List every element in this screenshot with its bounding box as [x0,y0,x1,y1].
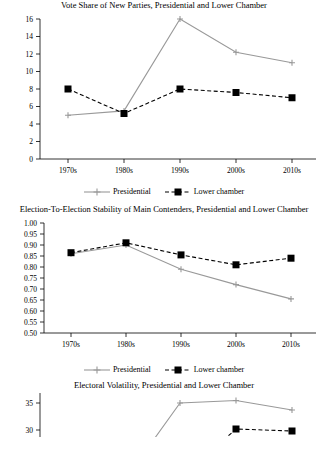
svg-text:0.75: 0.75 [24,274,37,283]
svg-text:14: 14 [26,32,34,41]
x-tick-marks-1 [68,159,292,163]
svg-text:2010s: 2010s [282,340,300,349]
svg-text:0.50: 0.50 [24,329,37,338]
lower-chamber-line-key-icon [165,188,191,196]
chart-vote-share-new-parties: Vote Share of New Parties, Presidential … [0,0,328,196]
y-tick-labels-3: 35 30 [26,399,34,435]
svg-text:1990s: 1990s [172,340,190,349]
y-tick-marks-2 [40,223,44,333]
series-lower-chamber-markers-3 [233,426,296,435]
legend-label-lower-chamber-1: Lower chamber [194,187,244,196]
legend-label-presidential-2: Presidential [113,365,151,374]
svg-text:10: 10 [26,67,34,76]
x-tick-marks-2 [71,333,291,337]
legend-item-presidential-1: Presidential [84,187,151,196]
svg-text:1970s: 1970s [59,166,77,175]
svg-text:30: 30 [26,426,34,435]
svg-text:2: 2 [29,137,33,146]
svg-text:12: 12 [26,50,34,59]
svg-text:16: 16 [26,15,34,24]
svg-text:4: 4 [29,120,33,129]
legend-1: Presidential Lower chamber [0,187,328,196]
svg-text:0.80: 0.80 [24,263,37,272]
legend-item-lower-chamber-1: Lower chamber [165,187,244,196]
series-presidential-line-1 [68,19,292,115]
y-tick-labels-1: 0 2 4 6 8 10 12 14 16 [26,15,34,164]
chart-svg-3: 35 30 [0,391,328,437]
lower-chamber-line-key-icon [165,366,191,374]
svg-text:2000s: 2000s [227,340,245,349]
y-tick-marks-3 [36,403,40,430]
svg-text:2000s: 2000s [227,166,245,175]
svg-text:1980s: 1980s [117,340,135,349]
svg-text:0.85: 0.85 [24,252,37,261]
legend-label-presidential-1: Presidential [113,187,151,196]
presidential-line-key-icon [84,366,110,374]
svg-text:8: 8 [29,85,33,94]
legend-item-presidential-2: Presidential [84,365,151,374]
svg-text:0.70: 0.70 [24,285,37,294]
chart-title-3: Electoral Volatility, Presidential and L… [0,380,328,391]
svg-text:6: 6 [29,102,33,111]
chart-svg-2: 1.00 0.95 0.90 0.85 0.80 0.75 0.70 0.65 … [0,215,328,365]
chart-svg-1: 0 2 4 6 8 10 12 14 16 1970s 1980s [0,11,328,187]
series-presidential-markers-3 [177,398,295,414]
legend-label-lower-chamber-2: Lower chamber [194,365,244,374]
svg-text:2010s: 2010s [283,166,301,175]
x-tick-labels-2: 1970s 1980s 1990s 2000s 2010s [62,340,300,349]
svg-text:0.65: 0.65 [24,296,37,305]
svg-text:1.00: 1.00 [24,219,37,228]
chart-electoral-volatility: Electoral Volatility, Presidential and L… [0,380,328,437]
chart-title-1: Vote Share of New Parties, Presidential … [0,0,328,11]
svg-text:0.55: 0.55 [24,318,37,327]
svg-text:1970s: 1970s [62,340,80,349]
legend-2: Presidential Lower chamber [0,365,328,374]
svg-text:0.95: 0.95 [24,230,37,239]
svg-text:0: 0 [29,155,33,164]
series-lower-chamber-markers-2 [68,239,295,268]
svg-text:0.60: 0.60 [24,307,37,316]
presidential-line-key-icon [84,188,110,196]
series-presidential-markers-2 [68,242,294,302]
legend-item-lower-chamber-2: Lower chamber [165,365,244,374]
plot-area-1: 0 2 4 6 8 10 12 14 16 1970s 1980s [0,11,328,187]
plot-area-3: 35 30 [0,391,328,437]
svg-text:1980s: 1980s [115,166,133,175]
svg-text:0.90: 0.90 [24,241,37,250]
chart-election-stability: Election-To-Election Stability of Main C… [0,204,328,374]
y-tick-labels-2: 1.00 0.95 0.90 0.85 0.80 0.75 0.70 0.65 … [24,219,37,338]
x-tick-labels-1: 1970s 1980s 1990s 2000s 2010s [59,166,301,175]
chart-title-2: Election-To-Election Stability of Main C… [0,204,328,215]
y-tick-marks-1 [36,19,40,159]
svg-text:1990s: 1990s [171,166,189,175]
plot-area-2: 1.00 0.95 0.90 0.85 0.80 0.75 0.70 0.65 … [0,215,328,365]
svg-text:35: 35 [26,399,34,408]
series-lower-chamber-line-1 [68,89,292,114]
series-presidential-line-3 [124,401,292,438]
